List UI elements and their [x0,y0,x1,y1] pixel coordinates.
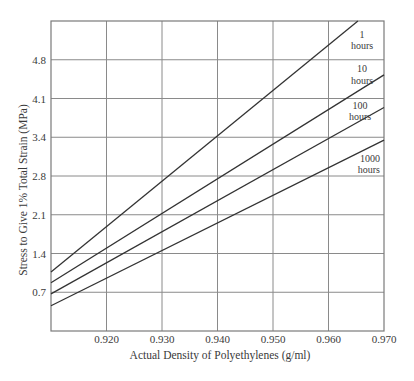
x-tick-label: 0.920 [94,333,119,345]
y-tick-label: 3.4 [32,131,46,143]
y-tick-label: 2.1 [32,209,46,221]
x-tick-label: 0.940 [205,333,230,345]
x-axis-title: Actual Density of Polyethylenes (g/ml) [130,349,311,362]
curve-labels: 1hours10hours100hours1000hours [349,29,380,175]
y-tick-label: 4.8 [32,54,46,66]
x-tick-label: 0.970 [372,333,397,345]
y-tick-label: 4.1 [32,93,46,105]
x-tick-label: 0.950 [261,333,286,345]
curve-label-unit: hours [351,75,373,86]
curve-label-unit: hours [358,164,380,175]
curve-label-value: 100 [353,100,368,111]
x-tick-label: 0.930 [150,333,175,345]
y-tick-label: 1.4 [32,248,46,260]
y-tick-label: 0.7 [32,286,46,298]
curve-label-value: 1 [360,29,365,40]
y-axis-title: Stress to Give 1% Total Strain (MPa) [17,104,30,276]
curve-label-value: 1000 [360,153,380,164]
y-tick-label: 2.8 [32,170,46,182]
curve-label-value: 10 [357,63,367,74]
grid-lines [51,21,384,331]
x-axis-ticks: 0.9200.9300.9400.9500.9600.970 [94,333,397,345]
density-stress-chart: 0.9200.9300.9400.9500.9600.970 0.71.42.1… [0,0,414,381]
y-axis-ticks: 0.71.42.12.83.44.14.8 [32,54,46,299]
series-line-1-hours [51,21,358,272]
curve-label-unit: hours [349,111,371,122]
x-tick-label: 0.960 [316,333,341,345]
curve-label-unit: hours [351,40,373,51]
